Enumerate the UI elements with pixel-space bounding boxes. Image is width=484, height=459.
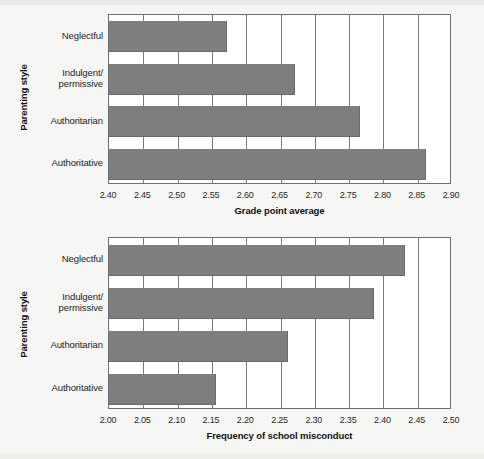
chart-0-category-label: Authoritative [13,157,103,168]
chart-0-plot-area [108,14,451,184]
chart-1-category-label-line: Indulgent/ [13,291,103,302]
figure-page: Parenting style Grade point average Negl… [0,0,484,459]
chart-0-category-label: Indulgent/permissive [13,67,103,89]
chart-1-bar [109,288,374,319]
chart-0-bar [109,149,426,180]
chart-0-y-axis-title: Parenting style [18,48,29,148]
chart-frequency-of-school-misconduct: Parenting style Frequency of school misc… [0,224,484,459]
chart-0-category-label-line: Authoritative [13,157,103,168]
chart-1-category-label-line: Authoritative [13,382,103,393]
chart-1-category-label-line: permissive [13,302,103,313]
chart-1-bar [109,331,288,362]
chart-1-x-tick-label: 2.50 [431,415,471,425]
chart-grade-point-average: Parenting style Grade point average Negl… [0,0,484,225]
chart-1-y-axis-title: Parenting style [18,275,29,375]
chart-0-bar [109,106,360,137]
chart-0-bar [109,21,227,52]
chart-0-category-label-line: permissive [13,78,103,89]
chart-0-category-label-line: Neglectful [13,30,103,41]
chart-0-x-tick-label: 2.90 [431,190,471,200]
chart-1-category-label: Authoritarian [13,339,103,350]
chart-0-x-axis-title: Grade point average [108,205,451,216]
chart-1-category-label-line: Neglectful [13,253,103,264]
chart-0-category-label-line: Indulgent/ [13,67,103,78]
chart-1-category-label: Indulgent/permissive [13,291,103,313]
chart-1-bar [109,245,405,276]
chart-1-gridline [418,238,419,408]
chart-1-x-axis-title: Frequency of school misconduct [108,430,451,441]
chart-1-category-label-line: Authoritarian [13,339,103,350]
chart-0-category-label-line: Authoritarian [13,115,103,126]
chart-0-bar [109,64,295,95]
chart-0-category-label: Authoritarian [13,115,103,126]
chart-0-category-label: Neglectful [13,30,103,41]
chart-1-plot-area [108,237,451,409]
chart-1-category-label: Neglectful [13,253,103,264]
chart-1-category-label: Authoritative [13,382,103,393]
chart-1-bar [109,374,216,405]
